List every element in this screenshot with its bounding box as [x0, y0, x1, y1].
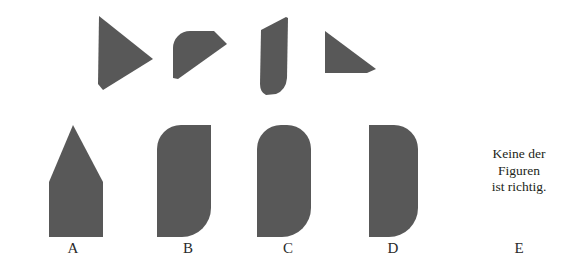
option-c-shape — [233, 124, 343, 238]
option-b-shape — [133, 124, 243, 238]
option-c-label: C — [233, 240, 343, 257]
answer-option-d[interactable]: D — [338, 110, 448, 273]
option-e-text: Keine der Figuren ist richtig. — [455, 146, 583, 196]
answer-option-e[interactable]: Keine der Figuren ist richtig. E — [455, 110, 583, 273]
answer-options-row: A B C — [0, 110, 583, 273]
option-e-line-3: ist richtig. — [455, 179, 583, 196]
option-e-line-2: Figuren — [455, 163, 583, 180]
option-e-label: E — [455, 240, 583, 257]
narrow-curved-slab-icon — [258, 16, 290, 96]
puzzle-piece-narrow-curved-slab — [258, 16, 290, 96]
answer-option-b[interactable]: B — [133, 110, 243, 273]
rounded-top-left-bottom-right-rectangle-icon — [154, 124, 222, 238]
quarter-round-wedge-icon — [170, 30, 228, 80]
option-a-shape — [18, 124, 128, 238]
right-triangle-flat-left-icon — [323, 30, 377, 80]
puzzle-pieces-row — [0, 0, 583, 110]
option-e-line-1: Keine der — [455, 146, 583, 163]
house-pentagon-icon — [39, 124, 107, 238]
right-pointing-triangle-icon — [97, 14, 153, 92]
answer-option-a[interactable]: A — [18, 110, 128, 273]
puzzle-piece-right-pointing-triangle — [97, 14, 153, 92]
option-a-label: A — [18, 240, 128, 257]
rounded-right-side-rectangle-icon — [359, 124, 427, 238]
puzzle-piece-quarter-round-wedge — [170, 30, 228, 80]
answer-option-c[interactable]: C — [233, 110, 343, 273]
option-d-shape — [338, 124, 448, 238]
puzzle-piece-right-triangle-flat-left — [323, 30, 377, 80]
rounded-top-both-and-bottom-right-rectangle-icon — [254, 124, 322, 238]
option-d-label: D — [338, 240, 448, 257]
option-b-label: B — [133, 240, 243, 257]
shape-assembly-question: A B C — [0, 0, 583, 273]
